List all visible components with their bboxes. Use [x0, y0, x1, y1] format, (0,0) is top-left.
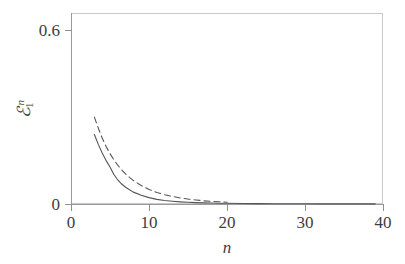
x-tick-label-10: 10 [141, 214, 158, 231]
x-tick-0 [71, 204, 72, 211]
y-tick-label-0: 0 [14, 196, 60, 213]
x-tick-label-20: 20 [219, 214, 236, 231]
x-tick-10 [149, 204, 150, 211]
chart-figure: 0.6 0 0 10 20 30 40 n ℰ1n [0, 0, 405, 264]
x-tick-20 [227, 204, 228, 211]
x-tick-label-30: 30 [297, 214, 314, 231]
plot-frame [71, 13, 383, 204]
x-tick-40 [383, 204, 384, 211]
y-tick-label-0.6: 0.6 [14, 22, 60, 39]
y-axis-line [71, 13, 72, 205]
x-tick-label-40: 40 [375, 214, 392, 231]
y-axis-title: ℰ1n [13, 100, 35, 118]
x-tick-30 [305, 204, 306, 211]
x-axis-title: n [223, 238, 232, 258]
y-axis-title-symbol: ℰ [14, 107, 34, 118]
x-tick-label-0: 0 [67, 214, 76, 231]
y-axis-title-superscript: n [14, 100, 26, 106]
y-tick-0.6 [65, 30, 72, 31]
